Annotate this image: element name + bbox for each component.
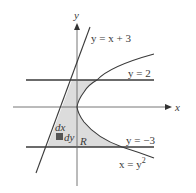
- label-x-equals-y-squared: x = y2: [119, 156, 146, 170]
- area-element-square: [56, 133, 63, 140]
- y-axis-label: y: [73, 9, 79, 21]
- line-y-equals-x-plus-3: [36, 27, 90, 173]
- region-label: R: [79, 135, 87, 147]
- y-axis-arrow-icon: [74, 23, 80, 30]
- label-y-equals-2: y = 2: [128, 67, 151, 79]
- label-y-equals-x-plus-3: y = x + 3: [91, 32, 131, 44]
- x-axis-arrow-icon: [165, 104, 172, 110]
- dy-label: dy: [64, 131, 75, 143]
- x-axis-label: x: [174, 101, 180, 113]
- label-y-equals-neg3: y = −3: [126, 134, 155, 146]
- region-diagram: y x y = x + 3 y = 2 y = −3 x = y2 R dx d…: [0, 0, 196, 193]
